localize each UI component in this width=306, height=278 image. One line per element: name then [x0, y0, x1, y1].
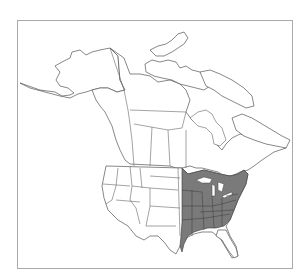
- baffin-island: [200, 70, 254, 108]
- species-range-shaded: [180, 168, 248, 252]
- north-america-map: [0, 0, 306, 278]
- lake-michigan: [212, 184, 215, 196]
- ellesmere-island: [150, 32, 188, 56]
- canada: [92, 48, 286, 176]
